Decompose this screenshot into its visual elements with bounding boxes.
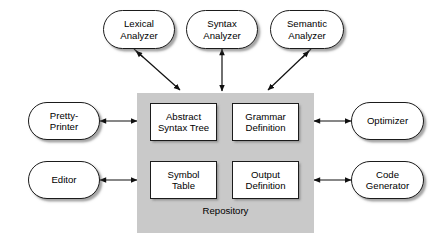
component-label-line2: Printer [50,121,78,132]
component-editor[interactable]: Editor [28,161,100,199]
component-label-line1: Optimizer [367,115,408,126]
component-label-line1: Syntax [203,18,241,29]
component-lexical-analyzer[interactable]: Lexical Analyzer [103,10,175,49]
component-syntax-analyzer[interactable]: Syntax Analyzer [186,10,258,49]
component-code-generator[interactable]: Code Generator [351,161,424,199]
component-label-line1: Pretty- [50,110,78,121]
connector-semantic-barb [302,51,309,58]
component-label-line2: Analyzer [120,30,158,41]
component-optimizer[interactable]: Optimizer [351,102,424,140]
component-label-line2: Analyzer [287,30,327,41]
store-output-definition[interactable]: Output Definition [232,161,299,199]
component-pretty-printer[interactable]: Pretty- Printer [28,102,100,140]
connector-lexical-barb [136,51,143,57]
store-label-line2: Definition [246,180,286,191]
store-label-line2: Definition [245,122,286,133]
store-grammar-definition[interactable]: Grammar Definition [232,103,299,141]
component-label-line2: Analyzer [203,30,241,41]
store-label-line1: Symbol [168,169,200,180]
repository-label: Repository [137,205,314,217]
store-label-line1: Abstract [158,111,209,122]
component-label-line2: Generator [366,180,409,191]
store-symbol-table[interactable]: Symbol Table [150,161,217,199]
store-label-line1: Grammar [245,111,286,122]
component-label-line1: Lexical [120,18,158,29]
store-abstract-syntax-tree[interactable]: Abstract Syntax Tree [150,103,217,141]
store-label-line2: Syntax Tree [158,122,209,133]
store-label-line2: Table [168,180,200,191]
component-semantic-analyzer[interactable]: Semantic Analyzer [270,10,344,49]
store-label-line1: Output [246,169,286,180]
component-label-line1: Editor [51,174,76,185]
diagram-canvas: Abstract Syntax Tree Grammar Definition … [0,0,437,240]
component-label-line1: Semantic [287,18,327,29]
component-label-line1: Code [366,169,409,180]
